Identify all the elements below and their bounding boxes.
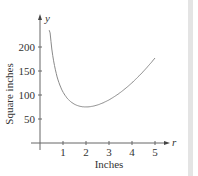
data-curve <box>49 30 155 107</box>
y-tick-label: 50 <box>24 113 36 125</box>
y-tick-label: 150 <box>19 65 36 77</box>
x-tick-label: 3 <box>106 146 112 158</box>
x-axis-arrow-icon <box>164 141 170 145</box>
y-axis-label: Square inches <box>3 63 15 124</box>
y-tick-label: 200 <box>19 41 36 53</box>
x-ticks: 12345 <box>60 141 158 158</box>
y-ticks: 50100150200 <box>19 41 43 125</box>
x-tick-label: 5 <box>152 146 158 158</box>
chart: y r 12345 50100150200 Inches Square inch… <box>0 0 198 176</box>
y-axis-arrow-icon <box>38 14 42 20</box>
y-axis-var: y <box>44 12 50 24</box>
x-tick-label: 4 <box>129 146 135 158</box>
y-tick-label: 100 <box>19 89 36 101</box>
x-axis-var: r <box>172 136 177 148</box>
x-tick-label: 2 <box>83 146 89 158</box>
x-tick-label: 1 <box>60 146 66 158</box>
x-axis-label: Inches <box>95 158 124 170</box>
